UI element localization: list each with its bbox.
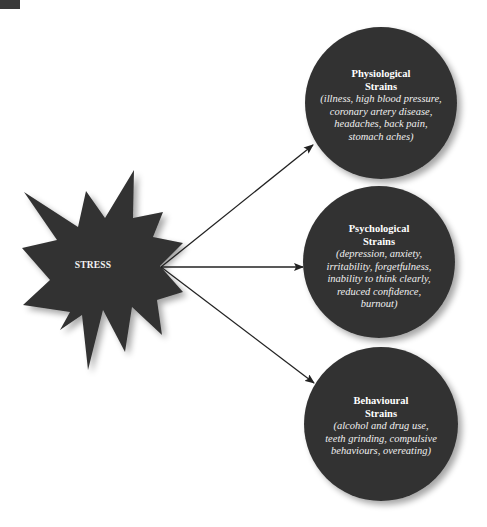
psychological-desc-line: irritability, forgetfulness, xyxy=(304,261,454,274)
stress-label: STRESS xyxy=(58,260,128,270)
physiological-title-line2: Strains xyxy=(306,81,456,94)
behavioural-strains-text: Behavioural Strains (alcohol and drug us… xyxy=(306,395,456,458)
psychological-desc-line: inability to think clearly, xyxy=(304,273,454,286)
arrow-to-physiological xyxy=(161,145,313,267)
behavioural-desc-line: (alcohol and drug use, xyxy=(306,420,456,433)
physiological-title-line1: Physiological xyxy=(306,68,456,81)
behavioural-title-line2: Strains xyxy=(306,408,456,421)
behavioural-desc-line: behaviours, overeating) xyxy=(306,445,456,458)
physiological-desc-line: stomach aches) xyxy=(306,131,456,144)
physiological-desc-line: (illness, high blood pressure, xyxy=(306,93,456,106)
stress-starburst-shape xyxy=(22,170,183,370)
psychological-desc-line: burnout) xyxy=(304,298,454,311)
psychological-title-line1: Psychological xyxy=(304,223,454,236)
physiological-desc-line: coronary artery disease, xyxy=(306,106,456,119)
behavioural-title-line1: Behavioural xyxy=(306,395,456,408)
physiological-strains-text: Physiological Strains (illness, high blo… xyxy=(306,68,456,143)
psychological-desc-line: (depression, anxiety, xyxy=(304,248,454,261)
arrow-to-behavioural xyxy=(161,267,314,383)
psychological-desc-line: reduced confidence, xyxy=(304,286,454,299)
psychological-strains-text: Psychological Strains (depression, anxie… xyxy=(304,223,454,311)
psychological-title-line2: Strains xyxy=(304,236,454,249)
physiological-desc-line: headaches, back pain, xyxy=(306,118,456,131)
behavioural-desc-line: teeth grinding, compulsive xyxy=(306,433,456,446)
